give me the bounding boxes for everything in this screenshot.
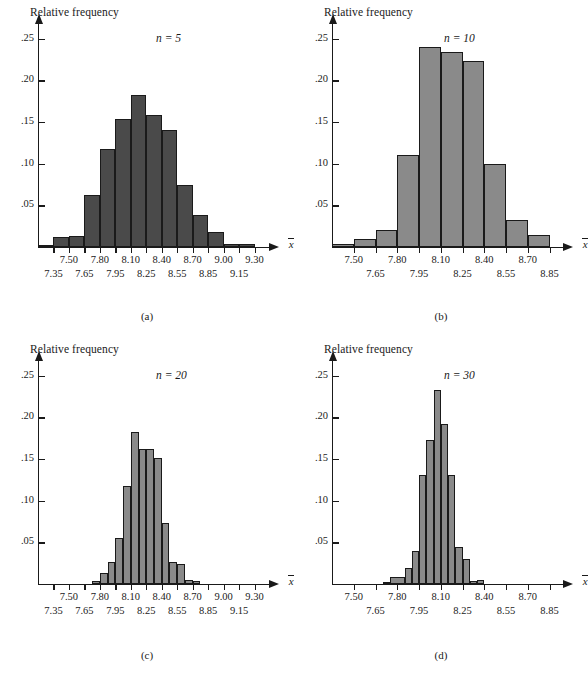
x-axis-label: x	[582, 238, 588, 251]
histogram-bar	[193, 215, 208, 247]
y-axis-tick-label: .20	[21, 410, 34, 421]
y-axis-tick-label: .25	[21, 369, 34, 380]
x-axis-tick-label: 8.70	[519, 254, 537, 265]
x-axis-tick	[239, 247, 240, 253]
x-axis-tick-label: 8.10	[122, 591, 140, 602]
y-axis-tick-label: .15	[21, 115, 34, 126]
y-axis-tick: .25	[39, 39, 45, 40]
histogram-bar	[162, 523, 170, 584]
x-axis-tick-label: 8.70	[183, 591, 201, 602]
x-axis-tick	[115, 247, 116, 253]
y-axis-tick: .05	[39, 205, 45, 206]
sample-size-annotation: n = 20	[156, 369, 187, 381]
histogram-bar	[426, 440, 433, 584]
histogram-bar	[84, 195, 99, 247]
x-axis-tick-label: 8.25	[137, 605, 155, 616]
y-axis-title: Relative frequency	[324, 6, 413, 18]
x-axis-tick-label: 8.70	[183, 254, 201, 265]
x-axis-tick	[84, 247, 85, 253]
y-axis-tick: .05	[333, 205, 339, 206]
x-axis-arrow-icon	[269, 243, 279, 251]
x-axis-tick	[162, 584, 163, 590]
y-axis-line	[332, 22, 333, 247]
x-axis-tick-label: 9.30	[245, 254, 263, 265]
x-axis-tick	[441, 584, 442, 590]
x-axis-line: x	[332, 584, 564, 585]
y-axis-tick: .15	[39, 459, 45, 460]
panel-c: Relative frequency.05.10.15.20.25x7.507.…	[0, 337, 294, 673]
y-axis-tick-label: .20	[21, 73, 34, 84]
y-axis-tick: .05	[333, 542, 339, 543]
x-axis-tick-label: 7.95	[410, 268, 428, 279]
x-axis-tick	[376, 247, 377, 253]
y-axis-tick: .05	[39, 542, 45, 543]
x-axis-tick-label: 8.40	[475, 591, 493, 602]
y-axis-tick: .10	[39, 164, 45, 165]
histogram-bar	[441, 52, 463, 247]
panel-caption-b: (b)	[294, 310, 588, 322]
x-axis-tick	[146, 584, 147, 590]
x-axis-tick-label: 8.70	[519, 591, 537, 602]
sample-size-annotation: n = 30	[444, 369, 475, 381]
plot-area-c: .05.10.15.20.25x7.507.808.108.408.709.00…	[38, 359, 270, 584]
histogram-bar	[419, 475, 426, 584]
histogram-bar	[405, 568, 412, 584]
x-axis-tick	[528, 584, 529, 590]
histogram-bar	[506, 220, 528, 248]
y-axis-tick: .10	[333, 164, 339, 165]
histogram-bar	[100, 573, 108, 584]
plot-area-d: .05.10.15.20.25x7.507.808.108.408.707.65…	[332, 359, 564, 584]
x-axis-tick	[53, 584, 54, 590]
x-axis-tick	[506, 247, 507, 253]
x-axis-tick	[463, 247, 464, 253]
y-axis-tick: .20	[333, 80, 339, 81]
histogram-bars	[332, 359, 564, 584]
histogram-bar	[412, 551, 419, 584]
histogram-bar	[100, 149, 115, 247]
y-axis-tick: .25	[333, 39, 339, 40]
x-axis-tick-label: 7.80	[388, 254, 406, 265]
y-axis-title: Relative frequency	[30, 343, 119, 355]
histogram-bar	[528, 235, 550, 247]
x-axis-tick	[100, 584, 101, 590]
y-axis-tick-label: .10	[21, 494, 34, 505]
x-axis-tick	[146, 247, 147, 253]
plot-area-a: .05.10.15.20.25x7.507.808.108.408.709.00…	[38, 22, 270, 247]
x-bar-glyph: x	[582, 575, 588, 588]
sample-size-annotation: n = 10	[444, 32, 475, 44]
x-axis-tick	[177, 584, 178, 590]
y-axis-tick-label: .05	[21, 198, 34, 209]
x-axis-tick-label: 8.25	[453, 605, 471, 616]
x-axis-tick-label: 8.25	[137, 268, 155, 279]
x-axis-arrow-icon	[563, 580, 573, 588]
sampling-distribution-figure: Relative frequency.05.10.15.20.25x7.507.…	[0, 0, 588, 673]
y-axis-title: Relative frequency	[30, 6, 119, 18]
histogram-bar	[455, 547, 462, 584]
y-axis-tick-label: .10	[315, 494, 328, 505]
y-axis-arrow-icon	[35, 351, 43, 361]
x-axis-tick	[115, 584, 116, 590]
x-axis-tick	[208, 247, 209, 253]
x-axis-arrow-icon	[269, 580, 279, 588]
x-axis-tick	[397, 247, 398, 253]
histogram-bars	[38, 22, 270, 247]
y-axis-tick: .20	[39, 80, 45, 81]
histogram-bar	[354, 239, 376, 247]
histogram-bar	[69, 236, 84, 247]
y-axis-line	[38, 22, 39, 247]
x-axis-tick-label: 7.80	[388, 591, 406, 602]
x-axis-tick-label: 8.85	[540, 605, 558, 616]
histogram-bar	[146, 115, 161, 248]
x-axis-tick-label: 9.00	[214, 591, 232, 602]
histogram-bar	[115, 119, 130, 247]
histogram-bar	[169, 562, 177, 585]
histogram-bar	[53, 237, 68, 247]
x-bar-glyph: x	[582, 238, 588, 251]
x-axis-tick	[193, 247, 194, 253]
x-axis-tick	[193, 584, 194, 590]
histogram-bar	[108, 562, 116, 585]
x-axis-tick-label: 7.65	[75, 268, 93, 279]
x-axis-tick	[131, 584, 132, 590]
y-axis-tick-label: .05	[315, 198, 328, 209]
histogram-bars	[38, 359, 270, 584]
